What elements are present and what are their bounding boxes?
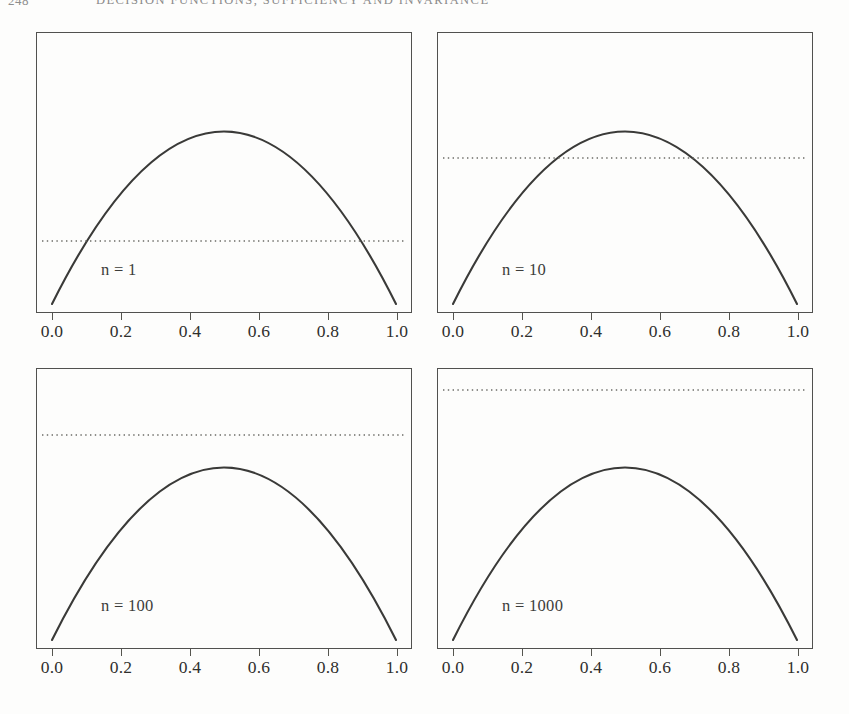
axis-tick-label: 1.0 [787,657,809,678]
axis-tick [660,313,661,320]
likelihood-curve-svg [437,368,813,649]
axis-tick-label: 0.0 [41,321,63,342]
axis-tick [259,649,260,656]
panel-plot-area [36,368,412,649]
axis-tick [397,313,398,320]
panel-annotation-n: n = 10 [502,260,546,280]
axis-tick [397,649,398,656]
plot-panel-n-1000: n = 1000 [437,368,813,649]
axis-tick [729,649,730,656]
axis-tick-label: 0.8 [317,657,339,678]
axis-tick [190,649,191,656]
x-axis-n-1000: 0.0 0.2 0.4 0.6 0.8 1.0 [437,649,813,681]
axis-tick-label: 1.0 [386,321,408,342]
plot-panel-n-100: n = 100 [36,368,412,649]
panel-annotation-n: n = 100 [101,596,154,616]
axis-tick [591,649,592,656]
axis-tick [453,313,454,320]
figure-likelihood-panels: n = 1 0.0 0.2 0.4 0.6 0.8 1.0 n = 10 0. [0,0,849,714]
axis-tick-label: 1.0 [787,321,809,342]
likelihood-curve-svg [36,32,412,313]
plot-panel-n-10: n = 10 [437,32,813,313]
axis-tick-label: 0.2 [511,657,533,678]
axis-tick-label: 0.4 [580,321,602,342]
x-axis-n-1: 0.0 0.2 0.4 0.6 0.8 1.0 [36,313,412,345]
likelihood-curve-svg [437,32,813,313]
axis-tick [591,313,592,320]
axis-tick-label: 0.0 [41,657,63,678]
axis-tick [52,649,53,656]
axis-tick-label: 0.4 [580,657,602,678]
panel-annotation-n: n = 1000 [502,596,563,616]
axis-tick [328,649,329,656]
axis-tick [729,313,730,320]
panel-plot-area [437,368,813,649]
axis-tick-label: 1.0 [386,657,408,678]
axis-tick [121,649,122,656]
panel-plot-area [437,32,813,313]
axis-tick [259,313,260,320]
axis-tick-label: 0.6 [649,321,671,342]
axis-tick [453,649,454,656]
x-axis-n-10: 0.0 0.2 0.4 0.6 0.8 1.0 [437,313,813,345]
panel-annotation-n: n = 1 [101,260,137,280]
axis-tick [522,649,523,656]
axis-tick-label: 0.2 [110,321,132,342]
axis-tick-label: 0.4 [179,657,201,678]
axis-tick [798,313,799,320]
plot-panel-n-1: n = 1 [36,32,412,313]
axis-tick-label: 0.6 [649,657,671,678]
axis-tick-label: 0.6 [248,321,270,342]
axis-tick [328,313,329,320]
axis-tick [798,649,799,656]
axis-tick-label: 0.2 [511,321,533,342]
axis-tick-label: 0.6 [248,657,270,678]
axis-tick-label: 0.8 [718,657,740,678]
axis-tick [660,649,661,656]
axis-tick-label: 0.8 [317,321,339,342]
axis-tick [190,313,191,320]
axis-tick-label: 0.0 [442,657,464,678]
axis-tick-label: 0.8 [718,321,740,342]
axis-tick [52,313,53,320]
likelihood-curve-svg [36,368,412,649]
axis-tick-label: 0.0 [442,321,464,342]
axis-tick-label: 0.4 [179,321,201,342]
axis-tick [121,313,122,320]
panel-plot-area [36,32,412,313]
x-axis-n-100: 0.0 0.2 0.4 0.6 0.8 1.0 [36,649,412,681]
axis-tick-label: 0.2 [110,657,132,678]
axis-tick [522,313,523,320]
